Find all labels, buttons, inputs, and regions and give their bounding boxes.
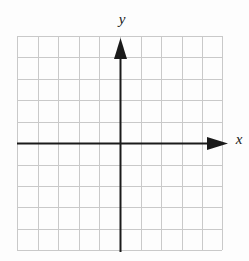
coordinate-grid-canvas [0,0,249,261]
x-axis-label: x [231,132,247,147]
y-axis-label: y [114,12,130,27]
figure-background [0,0,249,261]
coordinate-grid-figure: y x [0,0,249,261]
